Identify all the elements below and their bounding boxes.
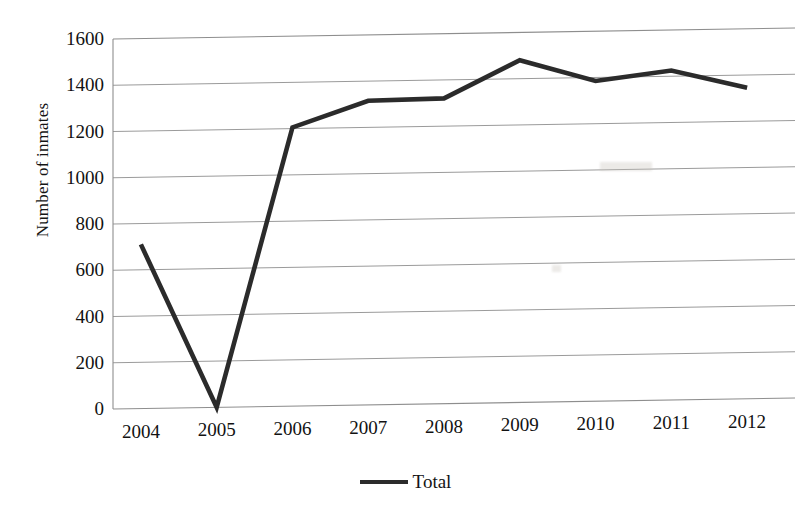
gridline bbox=[113, 213, 795, 224]
x-tick-label: 2006 bbox=[257, 418, 327, 440]
gridline bbox=[113, 167, 795, 178]
x-tick-label: 2005 bbox=[182, 419, 252, 441]
legend: Total bbox=[0, 466, 811, 496]
plot-svg bbox=[113, 39, 795, 409]
data-series-lines bbox=[141, 60, 747, 407]
y-tick-label: 800 bbox=[42, 214, 104, 233]
y-tick-label: 0 bbox=[42, 399, 104, 418]
y-tick-label: 1400 bbox=[42, 75, 104, 94]
y-tick-label: 400 bbox=[42, 307, 104, 326]
y-tick-label: 1200 bbox=[42, 122, 104, 141]
line-chart: Number of inmates 0200400600800100012001… bbox=[0, 0, 811, 516]
gridline bbox=[113, 28, 795, 39]
gridlines bbox=[113, 28, 795, 409]
x-tick-label: 2008 bbox=[409, 416, 479, 438]
gridline bbox=[113, 121, 795, 132]
y-tick-label: 200 bbox=[42, 353, 104, 372]
x-tick-label: 2010 bbox=[561, 413, 631, 435]
series-line-total bbox=[141, 60, 747, 407]
y-tick-label: 1000 bbox=[42, 168, 104, 187]
x-tick-label: 2012 bbox=[712, 411, 782, 433]
gridline bbox=[113, 306, 795, 317]
x-axis-tick-labels: 200420052006200720082009201020112012 bbox=[113, 419, 795, 449]
x-tick-label: 2011 bbox=[636, 412, 706, 434]
gridline bbox=[113, 259, 795, 270]
x-tick-label: 2009 bbox=[485, 414, 555, 436]
y-tick-label: 600 bbox=[42, 260, 104, 279]
x-tick-label: 2004 bbox=[106, 421, 176, 443]
y-tick-label: 1600 bbox=[42, 29, 104, 48]
gridline bbox=[113, 352, 795, 363]
x-tick-label: 2007 bbox=[333, 417, 403, 439]
y-axis-tick-labels: 02004006008001000120014001600 bbox=[38, 0, 104, 516]
plot-area bbox=[113, 39, 795, 409]
legend-line-swatch-icon bbox=[360, 480, 408, 484]
legend-entry-label: Total bbox=[413, 472, 452, 491]
